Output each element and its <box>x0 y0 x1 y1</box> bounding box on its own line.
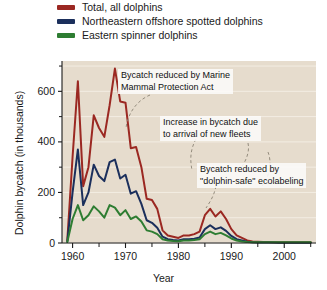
annotation-ecolabeling-line2: "dolphin-safe" ecolabeling <box>200 176 303 188</box>
x-tick-label: 1980 <box>167 250 191 262</box>
x-tick-label: 1990 <box>220 250 244 262</box>
annotation-ecolabeling: Bycatch reduced by "dolphin-safe" ecolab… <box>197 163 306 188</box>
y-tick-label: 0 <box>49 237 55 249</box>
x-tick-label: 1960 <box>61 250 85 262</box>
annotation-mmpa-line1: Bycatch reduced by Marine <box>121 70 230 82</box>
y-tick-label: 600 <box>37 85 55 97</box>
x-tick-label: 2000 <box>273 250 297 262</box>
dolphin-bycatch-chart: Total, all dolphins Northeastern offshor… <box>0 0 327 290</box>
y-tick-label: 400 <box>37 135 55 147</box>
annotation-new-fleets-line2: to arrival of new fleets <box>163 129 258 141</box>
plot-svg: 020040060019601970198019902000 <box>0 0 327 290</box>
annotation-new-fleets-line1: Increase in bycatch due <box>163 117 258 129</box>
annotation-ecolabeling-line1: Bycatch reduced by <box>200 164 303 176</box>
y-tick-label: 200 <box>37 186 55 198</box>
x-tick-label: 1970 <box>114 250 138 262</box>
annotation-new-fleets: Increase in bycatch due to arrival of ne… <box>160 116 261 141</box>
annotation-mmpa-line2: Mammal Protection Act <box>121 82 230 94</box>
annotation-mmpa: Bycatch reduced by Marine Mammal Protect… <box>118 69 233 94</box>
